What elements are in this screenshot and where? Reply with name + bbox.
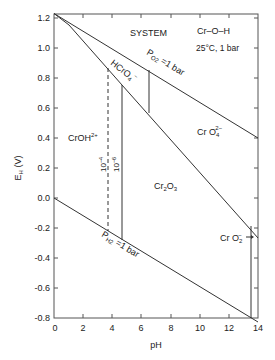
x-tick-label: 4 — [109, 323, 114, 333]
y-tick-label: -0.8 — [34, 313, 50, 323]
x-tick-label: 2 — [80, 323, 85, 333]
x-tick-label: 14 — [253, 323, 263, 333]
x-axis-title: pH — [150, 340, 162, 350]
cro2-arrow-icon — [246, 235, 254, 239]
eh-ph-diagram: 1.2 1.0 0.8 0.6 0.4 0.2 0.0 -0.2 -0.4 -0… — [0, 0, 275, 360]
y-tick-label: 0.0 — [37, 193, 50, 203]
x-tick-label: 12 — [224, 323, 234, 333]
x-tick-label: 8 — [168, 323, 173, 333]
cro4-label: Cr O42− — [197, 125, 223, 138]
x-tick-labels: 0 2 4 6 8 10 12 14 — [52, 323, 263, 333]
y-tick-label: 1.2 — [37, 13, 50, 23]
y-tick-label: -0.2 — [34, 223, 50, 233]
po2-label: PO2 =1 bar — [144, 47, 186, 78]
y-tick-label: 0.8 — [37, 73, 50, 83]
system-label: SYSTEM — [130, 28, 167, 38]
cro2-label: Cr O2− — [220, 232, 243, 244]
croh-label: CrOH2+ — [68, 132, 98, 143]
y-axis-title: EH (V) — [13, 156, 24, 181]
conditions-label: 25°C, 1 bar — [196, 43, 239, 53]
y-tick-label: 1.0 — [37, 43, 50, 53]
y-tick-label: 0.4 — [37, 133, 50, 143]
cr2o3-label: Cr2O3 — [154, 181, 178, 192]
system-name-label: Cr–O–H — [197, 26, 230, 36]
x-tick-label: 0 — [52, 323, 57, 333]
h2-line — [54, 198, 258, 322]
conc-1e-6-label: 10−6 — [111, 157, 121, 172]
y-tick-label: -0.6 — [34, 283, 50, 293]
hcro4-label: HCrO4− — [108, 57, 139, 85]
y-tick-labels: 1.2 1.0 0.8 0.6 0.4 0.2 0.0 -0.2 -0.4 -0… — [34, 13, 50, 323]
y-tick-label: 0.2 — [37, 163, 50, 173]
y-tick-label: 0.6 — [37, 103, 50, 113]
ph2-label: PH2 =1 bar — [99, 229, 141, 260]
x-tick-label: 10 — [195, 323, 205, 333]
conc-1e-4-label: 10−4 — [98, 157, 108, 172]
y-tick-label: -0.4 — [34, 253, 50, 263]
x-tick-label: 6 — [138, 323, 143, 333]
